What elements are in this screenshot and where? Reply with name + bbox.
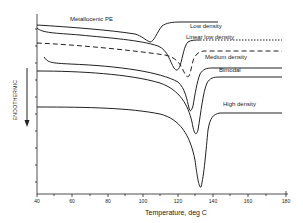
label-low-density: Low density <box>190 23 222 29</box>
y-axis-label: ENDOTHERMIC <box>12 80 18 121</box>
x-tick: 140 <box>209 198 218 204</box>
x-tick-labels: 40 60 80 100 120 140 160 180 <box>34 198 290 204</box>
x-tick: 120 <box>174 198 183 204</box>
label-linear-low-density: Linear low density <box>186 34 234 40</box>
label-high-density: High density <box>223 101 256 107</box>
y-axis-label-group: ENDOTHERMIC <box>12 68 30 127</box>
dsc-chart: 40 60 80 100 120 140 160 180 Temperature… <box>0 0 303 223</box>
x-tick: 60 <box>69 198 75 204</box>
x-tick: 180 <box>282 198 291 204</box>
curve-high-density <box>37 107 282 187</box>
label-bimodal: Bimodal <box>219 67 241 73</box>
x-tick: 40 <box>34 198 40 204</box>
x-tick: 80 <box>105 198 111 204</box>
x-axis-label: Temperature, deg C <box>145 209 207 217</box>
arrowhead-icon <box>25 120 30 127</box>
x-tick: 100 <box>139 198 148 204</box>
x-tick: 160 <box>244 198 253 204</box>
label-metallocenic-pe: Metallocenic PE <box>70 16 113 22</box>
label-medium-density: Medium density <box>205 54 247 60</box>
